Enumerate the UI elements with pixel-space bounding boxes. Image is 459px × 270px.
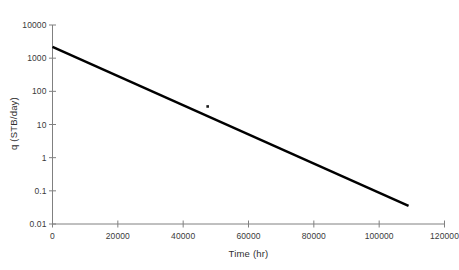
x-tick-label: 100000 xyxy=(365,231,394,241)
y-tick-label: 1 xyxy=(42,153,47,163)
x-tick-label: 40000 xyxy=(171,231,195,241)
y-tick-label: 0.01 xyxy=(30,219,47,229)
y-tick-label: 1000 xyxy=(27,53,46,63)
y-tick-label: 100 xyxy=(32,86,46,96)
x-tick-label: 80000 xyxy=(302,231,326,241)
x-tick-label: 120000 xyxy=(430,231,459,241)
axes-group xyxy=(53,25,445,224)
y-axis-title: q (STB/day) xyxy=(8,94,19,152)
y-tick-label: 10000 xyxy=(22,20,46,30)
y-tick-label: 0.1 xyxy=(34,186,46,196)
y-tick-label: 10 xyxy=(37,120,47,130)
x-tick-label: 0 xyxy=(50,231,55,241)
decline-curve-line xyxy=(53,47,409,206)
x-tick-label: 20000 xyxy=(106,231,130,241)
ticks-group xyxy=(49,25,445,228)
data-series-group xyxy=(53,47,409,206)
x-axis-title: Time (hr) xyxy=(229,248,269,259)
x-tick-label: 60000 xyxy=(236,231,260,241)
data-point-marker xyxy=(206,105,209,108)
